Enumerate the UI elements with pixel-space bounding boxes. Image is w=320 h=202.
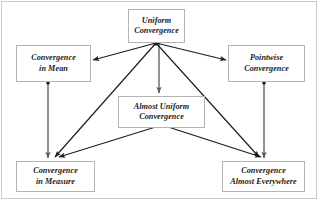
node-label: Convergence Almost Everywhere <box>230 166 297 187</box>
node-convergence-in-mean[interactable]: Convergence in Mean <box>16 45 91 82</box>
node-label: Convergence in Mean <box>31 53 76 74</box>
edge-almost-uniform-to-measure <box>59 125 162 157</box>
edge-uniform-to-mean <box>93 43 156 60</box>
node-convergence-in-measure[interactable]: Convergence in Measure <box>16 161 95 192</box>
node-label: Almost Uniform Convergence <box>134 102 190 123</box>
node-label: Convergence in Measure <box>33 166 78 187</box>
node-label: Uniform Convergence <box>134 16 179 37</box>
node-pointwise-convergence[interactable]: Pointwise Convergence <box>228 45 305 82</box>
node-label: Pointwise Convergence <box>244 53 289 74</box>
edge-uniform-to-pointwise <box>156 43 226 60</box>
edge-almost-uniform-to-almost-everywhere <box>162 125 261 157</box>
node-convergence-almost-everywhere[interactable]: Convergence Almost Everywhere <box>222 161 305 192</box>
node-almost-uniform-convergence[interactable]: Almost Uniform Convergence <box>118 96 205 128</box>
diagram-canvas: Uniform Convergence Convergence in Mean … <box>0 0 320 202</box>
node-uniform-convergence[interactable]: Uniform Convergence <box>128 9 185 43</box>
